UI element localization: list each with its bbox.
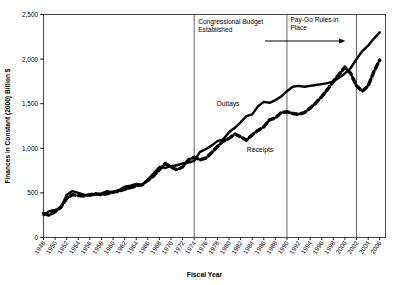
x-tick-label: 1984: [241, 239, 255, 255]
x-tick-label: 1976: [195, 239, 209, 255]
x-tick-label: 2002: [346, 239, 360, 255]
series-label-receipts: Receipts: [247, 146, 274, 154]
annotation-label-congressional-budget-line2: Established: [198, 26, 232, 33]
y-tick-label: 500: [27, 189, 38, 196]
plot-frame: [44, 15, 386, 238]
x-tick-label: 1964: [125, 239, 139, 255]
y-tick-label: 1,500: [22, 100, 38, 107]
chart-canvas: 05001,0001,5002,0002,500Finances in Cons…: [0, 0, 400, 285]
x-tick-label: 1982: [230, 239, 244, 255]
y-tick-label: 1,000: [22, 145, 38, 152]
x-tick-label: 1966: [137, 239, 151, 255]
x-tick-label: 1948: [33, 239, 47, 255]
x-tick-label: 1980: [218, 239, 232, 255]
x-tick-label: 1996: [311, 239, 325, 255]
x-tick-label: 1988: [264, 239, 278, 255]
x-tick-label: 1956: [79, 239, 93, 255]
y-tick-label: 0: [34, 234, 38, 241]
x-tick-label: 2000: [334, 239, 348, 255]
x-tick-label: 1992: [288, 239, 302, 255]
x-tick-label: 1998: [322, 239, 336, 255]
x-tick-label: 1954: [67, 239, 81, 255]
x-tick-label: 1994: [299, 239, 313, 255]
x-tick-label: 2006: [369, 239, 383, 255]
series-label-outlays: Outlays: [216, 100, 240, 108]
x-tick-label: 1986: [253, 239, 267, 255]
annotation-label-paygo-line1: Pay-Go Rules in: [290, 16, 338, 24]
paygo-arrow-head: [339, 38, 346, 43]
x-tick-label: 1970: [160, 239, 174, 255]
x-tick-label: 1974: [183, 239, 197, 255]
x-tick-label: 1972: [172, 239, 186, 255]
x-tick-label: 1978: [207, 239, 221, 255]
x-tick-label: 1960: [102, 239, 116, 255]
x-tick-label: 1962: [114, 239, 128, 255]
x-tick-label: 2004: [357, 239, 371, 255]
x-axis-title: Fiscal Year: [187, 271, 223, 278]
series-line-outlays: [44, 32, 380, 215]
x-tick-label: 1968: [149, 239, 163, 255]
y-tick-label: 2,500: [22, 11, 38, 18]
x-tick-label: 1958: [91, 239, 105, 255]
annotation-label-paygo-line2: Place: [290, 24, 307, 31]
y-tick-label: 2,000: [22, 56, 38, 63]
chart-figure: 05001,0001,5002,0002,500Finances in Cons…: [0, 0, 400, 285]
x-tick-label: 1950: [44, 239, 58, 255]
annotation-label-congressional-budget-line1: Congressional Budget: [198, 18, 263, 26]
x-tick-label: 1990: [276, 239, 290, 255]
x-tick-label: 1952: [56, 239, 70, 255]
y-axis-title: Finances in Constant (2000) Billion $: [4, 68, 12, 183]
